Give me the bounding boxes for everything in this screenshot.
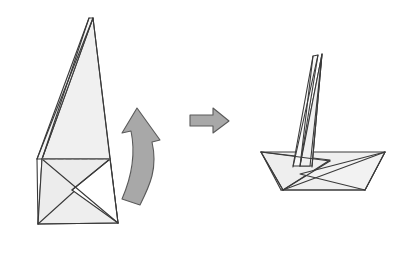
origami-illustration [0, 0, 407, 253]
origami-diagram [0, 0, 407, 253]
